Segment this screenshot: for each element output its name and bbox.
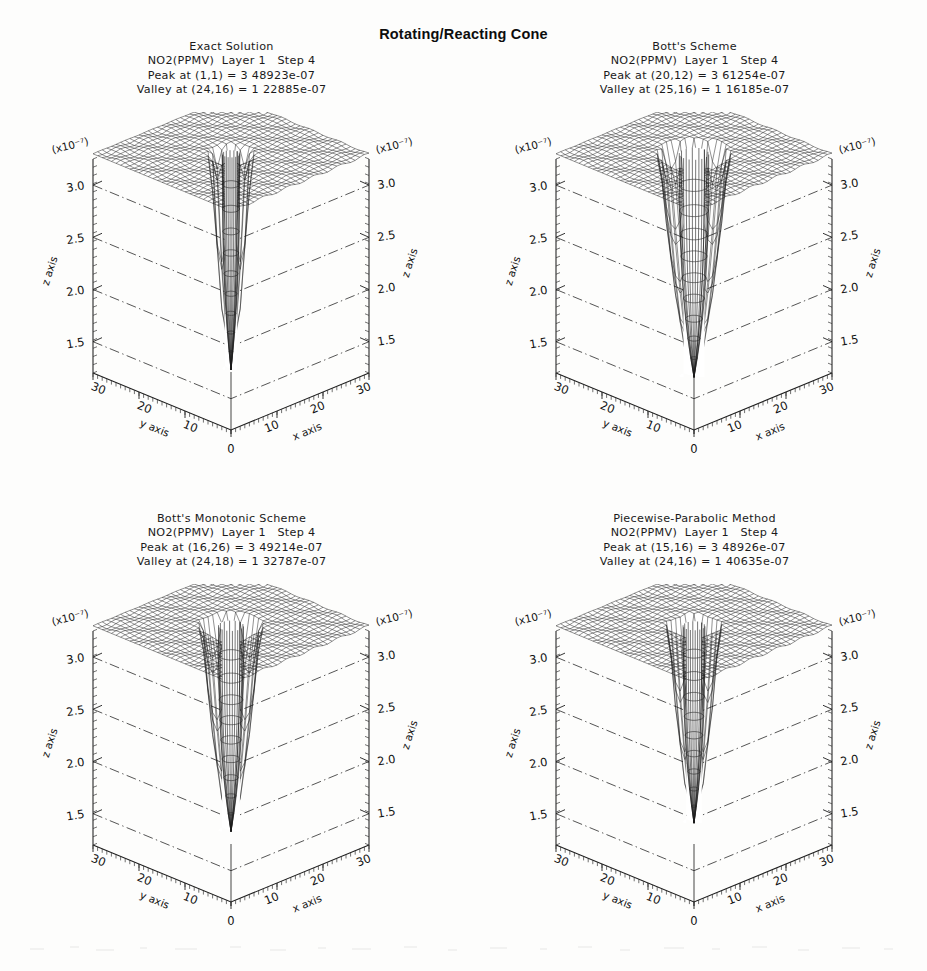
panel-exact-solution: Exact Solution NO2(PPMV) Layer 1 Step 4 … bbox=[0, 40, 463, 525]
z-tick-label-left: 2.0 bbox=[65, 755, 85, 772]
x-tick-label: 10 bbox=[262, 417, 281, 435]
y-tick-label: 30 bbox=[552, 379, 571, 397]
origin-tick-label: 0 bbox=[227, 442, 234, 456]
z-tick-label-right: 2.0 bbox=[376, 752, 396, 769]
z-tick-label-left: 1.5 bbox=[528, 335, 548, 352]
panel-method-label: Bott's Scheme bbox=[463, 40, 926, 54]
y-tick-label: 20 bbox=[598, 870, 617, 888]
y-tick-label: 20 bbox=[135, 870, 154, 888]
z-tick-label-left: 3.0 bbox=[65, 178, 85, 195]
panel-header: Piecewise-Parabolic Method NO2(PPMV) Lay… bbox=[463, 512, 926, 570]
y-axis-label: y axis bbox=[601, 888, 634, 911]
z-axis-label-right: z axis bbox=[862, 247, 883, 279]
z-axis-label-right: z axis bbox=[399, 719, 420, 751]
y-tick-label: 10 bbox=[181, 889, 200, 907]
cone-valley bbox=[679, 148, 709, 378]
z-tick-label-left: 2.0 bbox=[528, 283, 548, 300]
y-tick-label: 10 bbox=[644, 889, 663, 907]
panel-valley-label: Valley at (24,18) = 1 32787e-07 bbox=[0, 555, 463, 569]
panel-variable-label: NO2(PPMV) Layer 1 Step 4 bbox=[463, 54, 926, 68]
panel-valley-label: Valley at (24,16) = 1 22885e-07 bbox=[0, 83, 463, 97]
panel-method-label: Piecewise-Parabolic Method bbox=[463, 512, 926, 526]
y-tick-label: 20 bbox=[598, 398, 617, 416]
z-exponent-label-right: (x10⁻⁷) bbox=[837, 607, 876, 628]
x-tick-label: 20 bbox=[771, 870, 790, 888]
z-axis-label-left: z axis bbox=[39, 255, 60, 287]
x-tick-label: 30 bbox=[354, 379, 373, 397]
z-axis-label-left: z axis bbox=[39, 727, 60, 759]
origin-tick-label: 0 bbox=[690, 442, 697, 456]
y-tick-label: 30 bbox=[89, 379, 108, 397]
z-tick-label-right: 1.5 bbox=[839, 332, 859, 349]
y-tick-label: 10 bbox=[644, 417, 663, 435]
x-tick-label: 20 bbox=[308, 870, 327, 888]
y-axis-label: y axis bbox=[138, 888, 171, 911]
panel-valley-label: Valley at (24,16) = 1 40635e-07 bbox=[463, 555, 926, 569]
z-axis-label-left: z axis bbox=[502, 255, 523, 287]
panel-botts-monotonic-scheme: Bott's Monotonic Scheme NO2(PPMV) Layer … bbox=[0, 512, 463, 971]
figure-rotating-reacting-cone: Rotating/Reacting Cone Exact Solution NO… bbox=[0, 0, 927, 971]
y-tick-label: 30 bbox=[552, 851, 571, 869]
z-tick-label-left: 2.0 bbox=[528, 755, 548, 772]
origin-tick-label: 0 bbox=[690, 914, 697, 928]
surface-plot: 3.03.02.52.52.02.01.51.51020301020300x a… bbox=[0, 584, 463, 971]
cone-valley bbox=[222, 150, 239, 370]
y-tick-label: 30 bbox=[89, 851, 108, 869]
y-tick-label: 10 bbox=[181, 417, 200, 435]
z-tick-label-left: 2.5 bbox=[65, 230, 85, 247]
x-axis-label: x axis bbox=[291, 892, 324, 915]
z-tick-label-right: 3.0 bbox=[376, 647, 396, 664]
z-axis-label-right: z axis bbox=[399, 247, 420, 279]
panel-header: Exact Solution NO2(PPMV) Layer 1 Step 4 … bbox=[0, 40, 463, 98]
z-tick-label-left: 1.5 bbox=[65, 807, 85, 824]
z-tick-label-right: 1.5 bbox=[376, 804, 396, 821]
z-tick-label-left: 1.5 bbox=[65, 335, 85, 352]
panel-variable-label: NO2(PPMV) Layer 1 Step 4 bbox=[0, 54, 463, 68]
panel-header: Bott's Scheme NO2(PPMV) Layer 1 Step 4 P… bbox=[463, 40, 926, 98]
origin-tick-label: 0 bbox=[227, 914, 234, 928]
z-tick-label-left: 3.0 bbox=[65, 650, 85, 667]
x-axis-label: x axis bbox=[754, 420, 787, 443]
panel-header: Bott's Monotonic Scheme NO2(PPMV) Layer … bbox=[0, 512, 463, 570]
z-tick-label-right: 3.0 bbox=[839, 647, 859, 664]
z-tick-label-right: 2.5 bbox=[376, 700, 396, 717]
panel-valley-label: Valley at (25,16) = 1 16185e-07 bbox=[463, 83, 926, 97]
x-tick-label: 20 bbox=[308, 398, 327, 416]
z-tick-label-right: 3.0 bbox=[839, 175, 859, 192]
z-tick-label-right: 2.5 bbox=[376, 228, 396, 245]
panel-variable-label: NO2(PPMV) Layer 1 Step 4 bbox=[463, 526, 926, 540]
x-tick-label: 10 bbox=[725, 417, 744, 435]
panel-variable-label: NO2(PPMV) Layer 1 Step 4 bbox=[0, 526, 463, 540]
z-tick-label-right: 2.0 bbox=[839, 752, 859, 769]
x-tick-label: 10 bbox=[262, 889, 281, 907]
z-tick-label-left: 3.0 bbox=[528, 650, 548, 667]
z-exponent-label-left: (x10⁻⁷) bbox=[513, 607, 552, 628]
panel-piecewise-parabolic-method: Piecewise-Parabolic Method NO2(PPMV) Lay… bbox=[463, 512, 926, 971]
z-tick-label-left: 1.5 bbox=[528, 807, 548, 824]
z-exponent-label-left: (x10⁻⁷) bbox=[50, 135, 89, 156]
cone-valley bbox=[218, 621, 243, 832]
panel-peak-label: Peak at (16,26) = 3 49214e-07 bbox=[0, 541, 463, 555]
panel-method-label: Bott's Monotonic Scheme bbox=[0, 512, 463, 526]
y-axis-label: y axis bbox=[601, 416, 634, 439]
x-tick-label: 10 bbox=[725, 889, 744, 907]
cone-valley bbox=[683, 621, 705, 823]
z-tick-label-right: 2.5 bbox=[839, 700, 859, 717]
x-tick-label: 30 bbox=[817, 851, 836, 869]
surface-plot: 3.03.02.52.52.02.01.51.51020301020300x a… bbox=[0, 112, 463, 522]
x-tick-label: 30 bbox=[354, 851, 373, 869]
z-exponent-label-left: (x10⁻⁷) bbox=[513, 135, 552, 156]
z-axis-label-left: z axis bbox=[502, 727, 523, 759]
z-tick-label-right: 1.5 bbox=[839, 804, 859, 821]
z-exponent-label-right: (x10⁻⁷) bbox=[374, 135, 413, 156]
z-tick-label-right: 3.0 bbox=[376, 175, 396, 192]
z-tick-label-left: 2.0 bbox=[65, 283, 85, 300]
panel-botts-scheme: Bott's Scheme NO2(PPMV) Layer 1 Step 4 P… bbox=[463, 40, 926, 525]
panel-method-label: Exact Solution bbox=[0, 40, 463, 54]
z-exponent-label-right: (x10⁻⁷) bbox=[374, 607, 413, 628]
panel-peak-label: Peak at (15,16) = 3 48926e-07 bbox=[463, 541, 926, 555]
surface-plot: 3.03.02.52.52.02.01.51.51020301020300x a… bbox=[463, 584, 926, 971]
x-tick-label: 30 bbox=[817, 379, 836, 397]
x-axis-label: x axis bbox=[291, 420, 324, 443]
z-tick-label-left: 3.0 bbox=[528, 178, 548, 195]
